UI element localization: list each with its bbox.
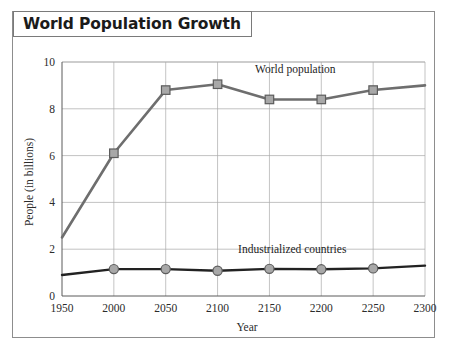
- y-tick-label: 10: [44, 56, 56, 68]
- gridlines-group: [62, 62, 425, 296]
- y-tick-labels: 0246810: [44, 56, 56, 302]
- y-tick-label: 6: [49, 150, 55, 162]
- series-annotations: World populationIndustrialized countries: [238, 63, 347, 255]
- x-tick-label: 2100: [206, 302, 229, 314]
- x-tick-label: 2200: [310, 302, 333, 314]
- data-point-marker: [213, 80, 222, 89]
- data-point-marker: [265, 95, 274, 104]
- x-tick-label: 1950: [51, 302, 74, 314]
- data-point-marker: [369, 264, 378, 273]
- x-tick-label: 2000: [102, 302, 125, 314]
- y-tick-label: 4: [49, 196, 55, 208]
- y-tick-label: 0: [49, 290, 55, 302]
- data-point-marker: [213, 266, 222, 275]
- page-title: World Population Growth: [23, 15, 241, 33]
- x-tick-labels: 19502000205021002150220022502300: [51, 302, 437, 314]
- series-label-2: Industrialized countries: [238, 243, 347, 255]
- x-tick-label: 2150: [258, 302, 281, 314]
- plot-border: [62, 62, 425, 296]
- figure-root: World Population Growth 0246810 19502000…: [0, 0, 449, 363]
- y-axis-title: People (in billions): [23, 138, 36, 226]
- data-point-marker: [110, 149, 119, 158]
- x-tick-label: 2300: [414, 302, 437, 314]
- series-label-1: World population: [255, 63, 336, 76]
- data-point-marker: [265, 264, 274, 273]
- series-line-1: [62, 84, 425, 237]
- page-footer-text: [0, 345, 449, 363]
- line-chart: 0246810 19502000205021002150220022502300…: [0, 0, 449, 363]
- x-tick-label: 2050: [154, 302, 177, 314]
- data-point-marker: [317, 265, 326, 274]
- data-point-marker: [161, 86, 170, 95]
- data-point-marker: [109, 264, 118, 273]
- y-tick-label: 2: [49, 243, 55, 255]
- data-point-marker: [369, 86, 378, 95]
- x-tick-label: 2250: [362, 302, 385, 314]
- y-tick-label: 8: [49, 103, 55, 115]
- plot-area-wrapper: 0246810 19502000205021002150220022502300…: [0, 0, 449, 363]
- x-axis-title: Year: [236, 321, 257, 333]
- chart-title-box: World Population Growth: [13, 11, 252, 37]
- data-point-marker: [317, 95, 326, 104]
- data-point-marker: [161, 264, 170, 273]
